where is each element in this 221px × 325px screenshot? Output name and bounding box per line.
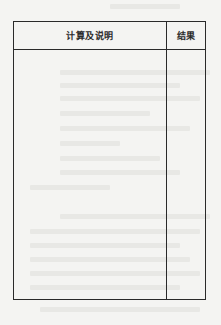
calculation-body-cell (14, 50, 166, 299)
column-header-calculation: 计算及说明 (14, 22, 166, 49)
calculation-table: 计算及说明 结果 (13, 21, 206, 300)
column-header-result: 结果 (167, 22, 205, 49)
table-header-row: 计算及说明 结果 (14, 22, 205, 50)
result-body-cell (167, 50, 205, 299)
